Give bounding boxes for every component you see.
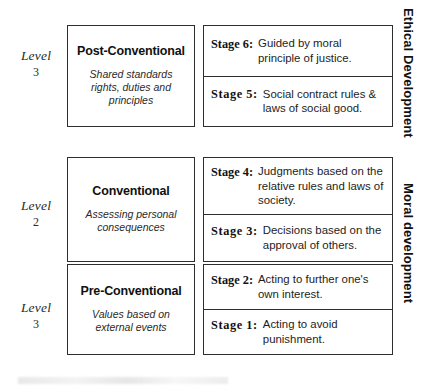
stage-cell-5: Stage 5: Social contract rules & laws of… bbox=[204, 76, 392, 127]
stage-cell-4: Stage 4: Judgments based on the relative… bbox=[204, 158, 392, 214]
axis-label-moral-development: Moral development bbox=[401, 183, 416, 303]
level-title-row-2: Conventional bbox=[92, 184, 169, 198]
axis-label-ethical-development: Ethical Development bbox=[401, 8, 416, 138]
stage-column-row-1: Stage 6: Guided by moral principle of ju… bbox=[203, 25, 393, 127]
stage-text-5: Social contract rules & laws of social g… bbox=[263, 87, 385, 116]
stage-text-3: Decisions based on the approval of other… bbox=[263, 223, 385, 252]
level-number-row-2: 2 bbox=[8, 215, 64, 229]
stage-cell-6: Stage 6: Guided by moral principle of ju… bbox=[204, 26, 392, 76]
level-description-row-2: Assessing personal consequences bbox=[74, 208, 188, 235]
level-title-row-3: Pre-Conventional bbox=[80, 284, 181, 298]
stage-key-6: Stage 6: bbox=[211, 36, 253, 52]
stage-column-row-2: Stage 4: Judgments based on the relative… bbox=[203, 157, 393, 262]
stage-key-4: Stage 4: bbox=[211, 164, 253, 180]
level-label-row-1: Level 3 bbox=[8, 48, 64, 79]
level-box-post-conventional: Post-Conventional Shared standards right… bbox=[67, 25, 195, 127]
level-number-row-3: 3 bbox=[8, 317, 64, 331]
level-box-pre-conventional: Pre-Conventional Values based on externa… bbox=[67, 264, 195, 355]
stage-cell-2: Stage 2: Acting to further one's own int… bbox=[204, 265, 392, 309]
stage-key-3: Stage 3: bbox=[211, 223, 258, 239]
level-label-row-3: Level 3 bbox=[8, 300, 64, 331]
level-word-row-2: Level bbox=[8, 198, 64, 214]
level-title-row-1: Post-Conventional bbox=[77, 44, 185, 58]
level-description-row-3: Values based on external events bbox=[74, 308, 188, 335]
level-word-row-3: Level bbox=[8, 300, 64, 316]
stage-text-6: Guided by moral principle of justice. bbox=[258, 36, 385, 65]
scan-artifact bbox=[18, 377, 228, 384]
stage-text-2: Acting to further one's own interest. bbox=[258, 272, 385, 301]
moral-development-diagram: Level 3 Post-Conventional Shared standar… bbox=[0, 0, 432, 386]
level-label-row-2: Level 2 bbox=[8, 198, 64, 229]
stage-cell-1: Stage 1: Acting to avoid punishment. bbox=[204, 309, 392, 354]
level-description-row-1: Shared standards rights, duties and prin… bbox=[74, 68, 188, 108]
level-word-row-1: Level bbox=[8, 48, 64, 64]
level-number-row-1: 3 bbox=[8, 65, 64, 79]
stage-column-row-3: Stage 2: Acting to further one's own int… bbox=[203, 264, 393, 355]
stage-key-2: Stage 2: bbox=[211, 272, 253, 288]
stage-cell-3: Stage 3: Decisions based on the approval… bbox=[204, 214, 392, 261]
stage-text-4: Judgments based on the relative rules an… bbox=[258, 164, 385, 208]
stage-key-5: Stage 5: bbox=[211, 87, 258, 103]
stage-text-1: Acting to avoid punishment. bbox=[263, 317, 385, 346]
stage-key-1: Stage 1: bbox=[211, 317, 258, 333]
level-box-conventional: Conventional Assessing personal conseque… bbox=[67, 157, 195, 262]
